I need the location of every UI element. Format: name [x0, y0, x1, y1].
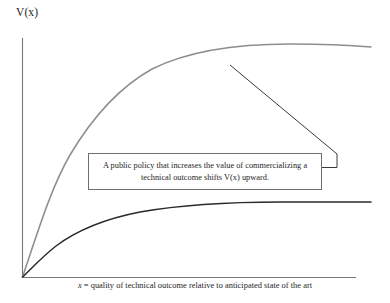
x-axis-caption: x = quality of technical outcome relativ… [0, 281, 390, 290]
lower-curve-before-policy [23, 202, 372, 277]
annotation-line-1: A public policy that increases the value… [103, 161, 307, 170]
chart-canvas [0, 0, 390, 303]
annotation-callout-box: A public policy that increases the value… [88, 153, 322, 190]
annotation-callout-text: A public policy that increases the value… [89, 160, 321, 184]
x-axis-caption-text: = quality of technical outcome relative … [82, 281, 312, 290]
annotation-line-2: technical outcome shifts V(x) upward. [141, 173, 269, 182]
y-axis-label: V(x) [16, 6, 38, 19]
figure-container: V(x) A public policy that increases the … [0, 0, 390, 303]
